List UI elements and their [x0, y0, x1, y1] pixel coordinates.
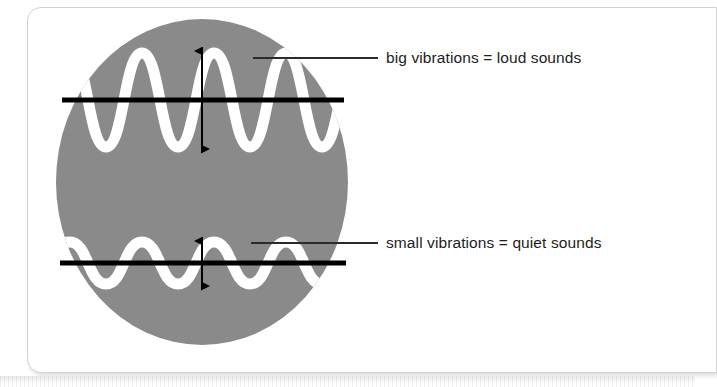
quiet-sounds-label: small vibrations = quiet sounds: [386, 235, 601, 251]
scan-edge-strip: [0, 376, 695, 387]
loud-sounds-label: big vibrations = loud sounds: [386, 50, 581, 66]
